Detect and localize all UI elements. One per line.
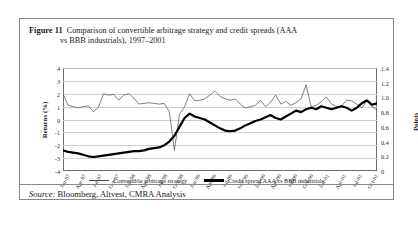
legend-label-convertible-arbitrage: Convertible arbitrage strategy <box>113 177 187 184</box>
series-credit-spread-line <box>63 100 377 157</box>
legend-item-credit-spread: Credit spread AAA vs BBB industrials <box>204 177 324 184</box>
legend-label-credit-spread: Credit spread AAA vs BBB industrials <box>228 177 324 184</box>
source-note: Source: Bloomberg, Altvest, CMRA Analysi… <box>29 189 186 199</box>
y-axis-left-tick-label: -3 <box>40 155 60 162</box>
y-axis-right-tick-label: 1.0 <box>381 94 403 101</box>
chart-legend: Convertible arbitrage strategy Credit sp… <box>20 177 393 184</box>
source-text: Bloomberg, Altvest, CMRA Analysis <box>58 189 186 199</box>
y-axis-left-tick-label: 2 <box>40 90 60 97</box>
legend-swatch-thick-line-icon <box>204 179 224 182</box>
y-axis-right-tick-label: 1.2 <box>381 79 403 86</box>
y-axis-left-title: Returns (%) <box>41 101 48 137</box>
source-divider <box>20 184 393 185</box>
y-axis-right-tick-label: 0.2 <box>381 153 403 160</box>
legend-item-convertible-arbitrage: Convertible arbitrage strategy <box>89 177 187 184</box>
y-axis-left-tick-label: -4 <box>40 168 60 175</box>
y-axis-right-tick-label: 0.4 <box>381 138 403 145</box>
series-convertible-arbitrage-line <box>63 85 377 151</box>
legend-swatch-thin-line-icon <box>89 180 109 181</box>
figure-caption-line2: vs BBB industrials), 1997–2001 <box>60 36 387 46</box>
y-axis-left-tick-label: 4 <box>40 65 60 72</box>
y-axis-right-title: Points <box>411 112 418 130</box>
y-axis-right-tick-label: 0.8 <box>381 109 403 116</box>
chart-series-svg <box>63 68 377 171</box>
y-axis-right-tick-label: 1.4 <box>381 65 403 72</box>
figure-title: Figure 11 Comparison of convertible arbi… <box>29 26 387 47</box>
figure-number: Figure 11 <box>29 26 63 35</box>
y-axis-right-tick-label: 0.6 <box>381 123 403 130</box>
y-axis-right-tick-label: 0 <box>381 168 403 175</box>
figure-container: Figure 11 Comparison of convertible arbi… <box>19 18 394 200</box>
source-prefix: Source: <box>29 189 55 199</box>
y-axis-left-tick-label: 3 <box>40 77 60 84</box>
figure-caption-line1: Comparison of convertible arbitrage stra… <box>67 26 298 35</box>
chart-plot-area: 43210-1-2-3-4 1.41.21.00.80.60.40.20 Jan… <box>63 68 377 171</box>
y-axis-left-tick-label: -2 <box>40 142 60 149</box>
